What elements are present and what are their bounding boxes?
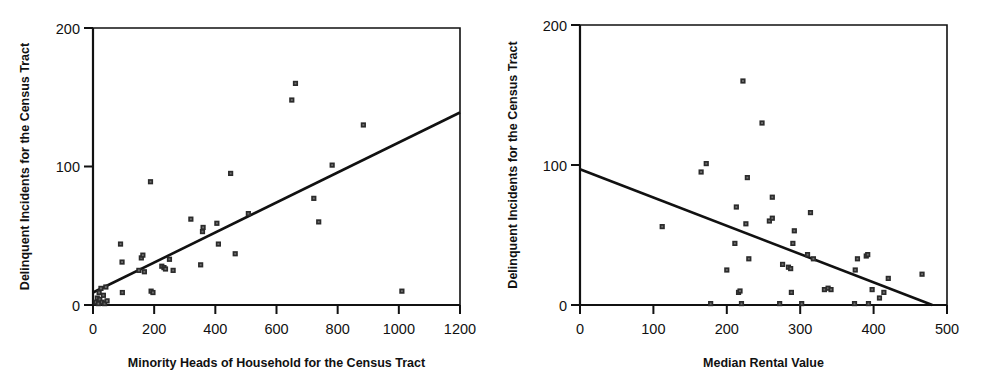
data-point-marker-core [735, 206, 737, 208]
data-point [699, 169, 704, 174]
data-point-marker-core [867, 254, 869, 256]
data-point-marker-core [247, 213, 249, 215]
data-point-marker-core [169, 258, 171, 260]
data-point [293, 81, 298, 86]
chart-panel-left: 0200400600800100012000100200Minority Hea… [0, 0, 494, 387]
data-point [808, 210, 813, 215]
data-point-marker-core [165, 268, 167, 270]
data-point [759, 120, 764, 125]
data-point-marker-core [100, 287, 102, 289]
data-point [780, 262, 785, 267]
data-point-marker-core [810, 212, 812, 214]
data-point [724, 267, 729, 272]
data-point-marker-core [295, 82, 297, 84]
data-point [737, 288, 742, 293]
regression-line [93, 112, 460, 292]
y-axis-title: Delinquent Incidents for the Census Trac… [18, 42, 32, 290]
x-tick-label: 800 [326, 321, 350, 337]
data-point-marker-core [793, 230, 795, 232]
data-point [118, 241, 123, 246]
data-point-marker-core [782, 263, 784, 265]
data-point [805, 252, 810, 257]
data-point [732, 241, 737, 246]
data-point [246, 211, 251, 216]
data-point [399, 289, 404, 294]
data-point [330, 163, 335, 168]
data-point [770, 195, 775, 200]
data-point-marker-core [871, 289, 873, 291]
x-tick-label: 400 [861, 321, 885, 337]
data-point-group [660, 78, 925, 306]
x-axis-title: Median Rental Value [703, 356, 824, 370]
data-point-marker-core [102, 294, 104, 296]
x-tick-label: 300 [788, 321, 812, 337]
data-point-marker-core [142, 254, 144, 256]
data-point-marker-core [761, 122, 763, 124]
data-point-marker-core [710, 303, 712, 305]
data-point-marker-core [202, 231, 204, 233]
data-point-marker-core [739, 290, 741, 292]
data-point [811, 256, 816, 261]
data-point-marker-core [771, 196, 773, 198]
data-point [163, 266, 168, 271]
data-point [171, 268, 176, 273]
y-tick-label: 100 [543, 158, 567, 174]
data-point [704, 161, 709, 166]
data-point [745, 175, 750, 180]
data-point [828, 287, 833, 292]
data-point-marker-core [401, 290, 403, 292]
data-point-marker-core [700, 171, 702, 173]
data-point-marker-core [854, 269, 856, 271]
data-point [167, 257, 172, 262]
data-point-marker-core [143, 271, 145, 273]
data-point-marker-core [98, 303, 100, 305]
data-point-marker-core [790, 291, 792, 293]
data-point [886, 276, 891, 281]
chart-panel-right: 01002003004005000100200Median Rental Val… [495, 0, 989, 387]
data-point-marker-core [823, 289, 825, 291]
y-tick-label: 0 [72, 298, 80, 314]
data-point [660, 224, 665, 229]
x-tick-label: 1200 [444, 321, 476, 337]
data-point [142, 269, 147, 274]
x-axis-title: Minority Heads of Household for the Cens… [128, 356, 426, 370]
x-tick-label: 200 [715, 321, 739, 337]
data-point-marker-core [868, 303, 870, 305]
data-point-group [93, 81, 404, 306]
data-point-marker-core [879, 297, 881, 299]
data-point [198, 262, 203, 267]
data-point-marker-core [106, 300, 108, 302]
x-tick-label: 0 [576, 321, 584, 337]
data-point-marker-core [746, 177, 748, 179]
data-point [148, 179, 153, 184]
data-point [734, 204, 739, 209]
data-point [103, 284, 108, 289]
data-point-marker-core [190, 218, 192, 220]
data-point [789, 290, 794, 295]
data-point [877, 295, 882, 300]
data-point-marker-core [830, 289, 832, 291]
data-point-marker-core [742, 80, 744, 82]
data-point [853, 267, 858, 272]
data-point [743, 221, 748, 226]
data-point-marker-core [216, 222, 218, 224]
data-point [201, 225, 206, 230]
data-point-marker-core [217, 243, 219, 245]
data-point [119, 259, 124, 264]
data-point [708, 301, 713, 306]
data-point-marker-core [230, 172, 232, 174]
data-point [881, 290, 886, 295]
data-point [770, 216, 775, 221]
y-tick-label: 0 [559, 298, 567, 314]
data-point-marker-core [138, 269, 140, 271]
data-point [870, 287, 875, 292]
data-point-marker-core [745, 223, 747, 225]
data-point-marker-core [748, 258, 750, 260]
data-point [852, 301, 857, 306]
data-point [855, 256, 860, 261]
data-point [361, 122, 366, 127]
y-tick-label: 200 [56, 21, 80, 37]
data-point [214, 221, 219, 226]
scatter-plot-left: 0200400600800100012000100200Minority Hea… [0, 0, 494, 387]
data-point-marker-core [741, 303, 743, 305]
